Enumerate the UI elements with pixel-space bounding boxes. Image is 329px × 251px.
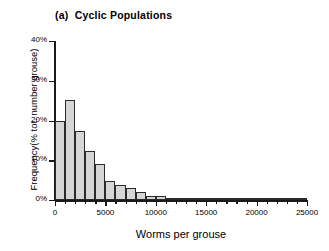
x-tick-minor xyxy=(236,201,237,204)
plot-area: 0%10%20%30%40% 0500010000150002000025000 xyxy=(55,41,307,200)
x-tick-label: 0 xyxy=(53,208,57,217)
bar xyxy=(55,121,65,200)
panel-title-text: Cyclic Populations xyxy=(75,9,173,21)
y-tick-label: 20% xyxy=(31,115,47,124)
x-tick-label: 5000 xyxy=(96,208,114,217)
bar xyxy=(156,196,166,200)
x-axis-title: Worms per grouse xyxy=(55,228,307,240)
x-tick-minor xyxy=(75,201,76,204)
y-tick-label: 10% xyxy=(31,154,47,163)
x-tick-major xyxy=(105,201,106,206)
bar xyxy=(105,181,115,200)
x-tick-minor xyxy=(247,201,248,204)
x-tick-label: 10000 xyxy=(145,208,167,217)
x-tick-minor xyxy=(226,201,227,204)
bar xyxy=(226,198,236,200)
x-tick-minor xyxy=(115,201,116,204)
y-tick-mark xyxy=(49,81,55,82)
bar xyxy=(267,198,277,200)
panel-title: (a) Cyclic Populations xyxy=(55,9,172,21)
x-tick-minor xyxy=(216,201,217,204)
x-tick-minor xyxy=(166,201,167,204)
y-tick-label: 40% xyxy=(31,35,47,44)
x-tick-minor xyxy=(186,201,187,204)
bar xyxy=(176,198,186,200)
x-tick-minor xyxy=(176,201,177,204)
bar xyxy=(126,188,136,200)
bar xyxy=(75,131,85,200)
y-tick-label: 30% xyxy=(31,75,47,84)
x-tick-minor xyxy=(146,201,147,204)
x-tick-major xyxy=(206,201,207,206)
bar xyxy=(297,198,307,200)
x-tick-minor xyxy=(267,201,268,204)
x-tick-major xyxy=(55,201,56,206)
bar xyxy=(136,192,146,200)
bar xyxy=(257,198,267,200)
x-tick-minor xyxy=(287,201,288,204)
x-tick-minor xyxy=(297,201,298,204)
y-tick-label: 0% xyxy=(35,194,47,203)
bar xyxy=(115,185,125,201)
panel-label: (a) xyxy=(55,9,68,21)
bar xyxy=(196,198,206,200)
bar xyxy=(85,151,95,200)
y-tick-mark xyxy=(49,41,55,42)
x-tick-minor xyxy=(196,201,197,204)
bar xyxy=(277,198,287,200)
bar xyxy=(65,100,75,200)
bar xyxy=(206,198,216,200)
x-tick-minor xyxy=(277,201,278,204)
x-tick-minor xyxy=(65,201,66,204)
bar xyxy=(236,198,246,200)
x-tick-major xyxy=(257,201,258,206)
x-tick-minor xyxy=(85,201,86,204)
bar xyxy=(287,198,297,200)
x-tick-label: 25000 xyxy=(296,208,318,217)
bar xyxy=(247,198,257,200)
chart-figure: (a) Cyclic Populations Frequency(% tot. … xyxy=(0,0,329,251)
x-axis-line xyxy=(55,200,308,202)
x-tick-major xyxy=(307,201,308,206)
bar xyxy=(186,198,196,200)
bar xyxy=(95,164,105,200)
bar xyxy=(146,196,156,200)
x-tick-label: 20000 xyxy=(245,208,267,217)
x-tick-minor xyxy=(126,201,127,204)
bar xyxy=(166,198,176,200)
bar xyxy=(216,198,226,200)
x-tick-major xyxy=(156,201,157,206)
x-tick-label: 15000 xyxy=(195,208,217,217)
x-tick-minor xyxy=(95,201,96,204)
x-tick-minor xyxy=(136,201,137,204)
